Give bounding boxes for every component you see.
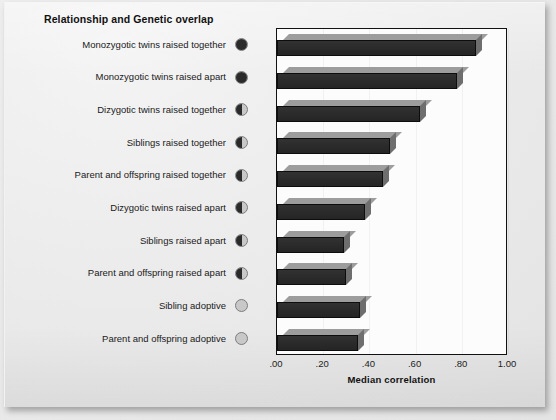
bar-front-face — [277, 302, 360, 318]
bar — [277, 67, 463, 83]
category-label-column: Monozygotic twins raised togetherMonozyg… — [26, 28, 248, 355]
x-tick-label: 1.00 — [498, 358, 517, 369]
genetic-overlap-dot-icon — [235, 103, 248, 116]
bar-side-face — [420, 100, 426, 122]
category-row: Monozygotic twins raised together — [26, 28, 248, 61]
bar — [277, 34, 482, 50]
genetic-overlap-dot-icon — [235, 169, 248, 182]
category-row: Dizygotic twins raised apart — [26, 192, 248, 225]
bar-side-face — [346, 263, 352, 285]
category-row: Parent and offspring adoptive — [26, 322, 248, 355]
genetic-overlap-fill — [236, 170, 242, 181]
category-row: Parent and offspring raised together — [26, 159, 248, 192]
bar-side-face — [383, 165, 389, 187]
category-label: Sibling adoptive — [159, 301, 235, 311]
x-axis-title: Median correlation — [276, 374, 507, 385]
bar-side-face — [390, 132, 396, 154]
bar-front-face — [277, 204, 365, 220]
category-row: Parent and offspring raised apart — [26, 257, 248, 290]
category-label: Siblings raised together — [127, 138, 235, 148]
bar — [277, 198, 371, 214]
bar-front-face — [277, 106, 420, 122]
figure-canvas: Relationship and Genetic overlap Monozyg… — [0, 0, 556, 420]
category-label: Dizygotic twins raised apart — [110, 203, 235, 213]
genetic-overlap-fill — [236, 268, 242, 279]
x-tick-label: .20 — [316, 358, 329, 369]
category-label: Parent and offspring adoptive — [102, 334, 235, 344]
plot-inner — [277, 29, 506, 354]
category-row: Dizygotic twins raised together — [26, 93, 248, 126]
category-row: Siblings raised together — [26, 126, 248, 159]
genetic-overlap-dot-icon — [235, 136, 248, 149]
genetic-overlap-fill — [236, 235, 242, 246]
x-tick-label: .80 — [454, 358, 467, 369]
genetic-overlap-dot-icon — [235, 38, 248, 51]
genetic-overlap-dot-icon — [235, 234, 248, 247]
x-axis-tick-labels: .00.20.40.60.801.00 — [276, 356, 507, 372]
genetic-overlap-fill — [236, 39, 247, 50]
bar — [277, 165, 389, 181]
category-row: Sibling adoptive — [26, 290, 248, 323]
category-row: Monozygotic twins raised apart — [26, 61, 248, 94]
category-label: Parent and offspring raised apart — [88, 268, 235, 278]
bar-side-face — [360, 296, 366, 318]
genetic-overlap-dot-icon — [235, 71, 248, 84]
category-label: Monozygotic twins raised together — [82, 40, 235, 50]
category-label: Dizygotic twins raised together — [97, 105, 235, 115]
x-tick-label: .40 — [362, 358, 375, 369]
page-title: Relationship and Genetic overlap — [44, 13, 214, 25]
bar-front-face — [277, 73, 457, 89]
x-tick-label: .60 — [408, 358, 421, 369]
genetic-overlap-fill — [236, 137, 242, 148]
gridline — [508, 29, 509, 354]
bar-front-face — [277, 269, 346, 285]
genetic-overlap-fill — [236, 202, 242, 213]
genetic-overlap-dot-icon — [235, 299, 248, 312]
bar-front-face — [277, 138, 390, 154]
bar-front-face — [277, 335, 358, 351]
x-tick-label: .00 — [269, 358, 282, 369]
genetic-overlap-dot-icon — [235, 201, 248, 214]
bar-side-face — [476, 34, 482, 56]
category-row: Siblings raised apart — [26, 224, 248, 257]
bar-front-face — [277, 40, 476, 56]
genetic-overlap-fill — [236, 104, 242, 115]
bar — [277, 263, 352, 279]
genetic-overlap-fill — [236, 72, 247, 83]
genetic-overlap-dot-icon — [235, 332, 248, 345]
bar — [277, 231, 350, 247]
bar — [277, 100, 426, 116]
bar — [277, 132, 396, 148]
plot-area — [276, 28, 507, 355]
category-label: Siblings raised apart — [140, 236, 235, 246]
bar-front-face — [277, 237, 344, 253]
bar — [277, 296, 366, 312]
bar-front-face — [277, 171, 383, 187]
genetic-overlap-dot-icon — [235, 267, 248, 280]
category-label: Parent and offspring raised together — [75, 170, 235, 180]
category-label: Monozygotic twins raised apart — [96, 72, 235, 82]
bar — [277, 329, 364, 345]
